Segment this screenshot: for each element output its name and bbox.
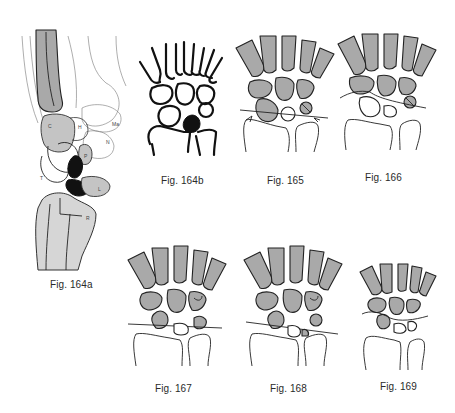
- figure-167: [128, 244, 228, 369]
- figure-169: [360, 262, 440, 372]
- caption-166: Fig. 166: [365, 172, 402, 183]
- label-ma: Ma: [112, 121, 119, 127]
- radius: [36, 193, 96, 270]
- figure-164b: [138, 40, 228, 155]
- lunate-dark: [68, 156, 83, 178]
- figure-166-drawing: [338, 32, 438, 152]
- figure-169-drawing: [360, 262, 440, 372]
- figure-164a: C H Ma N P L T R: [8, 28, 133, 273]
- label-l: L: [98, 186, 101, 192]
- caption-167: Fig. 167: [155, 383, 192, 394]
- caption-168: Fig. 168: [270, 383, 307, 394]
- caption-164b: Fig. 164b: [161, 175, 204, 186]
- label-n: N: [106, 139, 110, 145]
- caption-169: Fig. 169: [380, 381, 417, 392]
- figure-165-drawing: [236, 34, 336, 154]
- figure-168: [244, 244, 344, 369]
- lunate-dark: [183, 115, 200, 132]
- figure-164a-drawing: C H Ma N P L T R: [8, 28, 133, 273]
- figure-168-drawing: [244, 244, 344, 369]
- figure-166: [338, 32, 438, 152]
- figure-164b-drawing: [138, 40, 228, 155]
- label-r: R: [86, 215, 90, 221]
- capitate: [41, 114, 75, 152]
- label-t: T: [40, 175, 43, 181]
- figure-165: [236, 34, 336, 154]
- metacarpal-shaft: [36, 30, 63, 112]
- caption-164a: Fig. 164a: [50, 279, 93, 290]
- label-h: H: [78, 124, 82, 130]
- label-c: C: [48, 123, 52, 129]
- caption-165: Fig. 165: [267, 175, 304, 186]
- figure-167-drawing: [128, 244, 228, 369]
